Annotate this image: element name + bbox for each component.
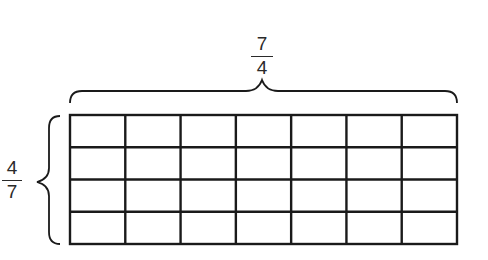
left-brace-icon [37, 116, 60, 244]
top-brace-icon [70, 80, 457, 103]
grid-7x4 [70, 115, 457, 244]
diagram-canvas [0, 0, 488, 260]
